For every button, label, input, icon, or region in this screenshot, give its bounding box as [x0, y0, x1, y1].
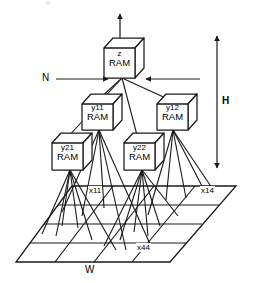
- label-x14: x14: [200, 186, 215, 195]
- label-x44: x44: [136, 243, 151, 252]
- label-h: H: [222, 95, 229, 106]
- diagram-canvas: o: [0, 0, 253, 283]
- label-w: W: [85, 264, 94, 275]
- label-x11: x11: [88, 186, 102, 195]
- arrows-layer: [0, 0, 253, 283]
- label-n: N: [42, 72, 49, 83]
